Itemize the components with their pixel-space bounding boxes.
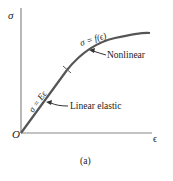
origin-label: O — [12, 128, 20, 140]
y-axis-label: σ — [8, 9, 14, 21]
nonlinear-annotation: Nonlinear — [107, 50, 146, 60]
linear-elastic-arrowhead — [46, 100, 52, 105]
nonlinear-equation-label: σ = f(ϵ) — [79, 30, 108, 47]
linear-elastic-leader-arrow — [51, 103, 68, 106]
stress-strain-diagram: σ O ϵ σ = Eϵ σ = f(ϵ) Nonlinear Linear e… — [0, 0, 173, 181]
linear-elastic-annotation: Linear elastic — [70, 101, 121, 111]
x-axis-label: ϵ — [153, 133, 157, 144]
nonlinear-leader-arrow — [93, 51, 106, 55]
linear-segment — [21, 70, 67, 133]
figure-caption: (a) — [80, 156, 91, 167]
